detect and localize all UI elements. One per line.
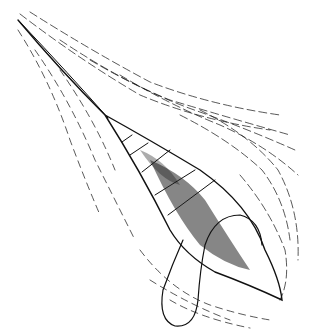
surgical-illustration xyxy=(0,0,310,334)
skin-contour-lines xyxy=(20,12,298,300)
skin-contour-lines-lower xyxy=(18,30,270,328)
incision xyxy=(18,20,282,300)
illustration xyxy=(0,0,310,334)
